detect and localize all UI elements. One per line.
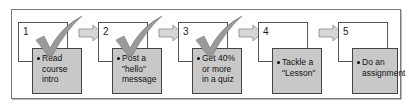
checkmark-icon bbox=[34, 14, 84, 58]
checkmark-icon bbox=[194, 14, 244, 58]
step-2-line-2: "hello" bbox=[117, 64, 146, 74]
bullet-icon bbox=[357, 61, 360, 64]
step-5-line-1: Do an bbox=[362, 57, 385, 67]
step-2-line-3: message bbox=[117, 74, 157, 84]
step-1-line-3: intro bbox=[37, 74, 59, 84]
step-3-line-3: in a quiz bbox=[197, 74, 234, 84]
step-4-card: Tackle a "Lesson" bbox=[272, 48, 322, 94]
step-1-number: 1 bbox=[23, 26, 29, 37]
step-4-number: 4 bbox=[263, 26, 269, 37]
step-4-line-2: "Lesson" bbox=[277, 68, 315, 78]
step-5-card: Do an assignment bbox=[352, 48, 398, 94]
step-5-line-2: assignment bbox=[357, 68, 405, 78]
step-2-number: 2 bbox=[103, 26, 109, 37]
step-5-number: 5 bbox=[343, 26, 349, 37]
step-4-line-1: Tackle a bbox=[282, 57, 313, 67]
checkmark-icon bbox=[114, 14, 164, 58]
diagram-frame: 1 Read course intro 2 Post a "hello" mes… bbox=[11, 9, 401, 99]
step-1-line-2: course bbox=[37, 64, 68, 74]
step-3-line-2: or more bbox=[197, 64, 231, 74]
bullet-icon bbox=[277, 61, 280, 64]
step-3-number: 3 bbox=[183, 26, 189, 37]
